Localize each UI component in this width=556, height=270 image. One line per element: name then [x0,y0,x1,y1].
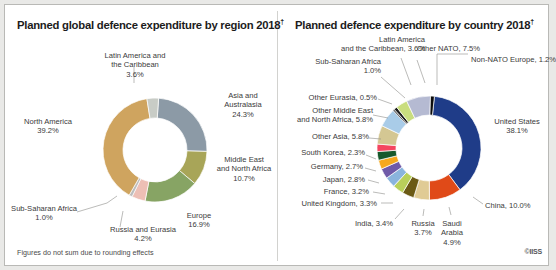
label-united-states: United States 38.1% [487,117,547,136]
label-france: France, 3.2% [281,187,369,196]
leader-non-nato-europe-r [437,54,468,85]
pie-slice-united-states [432,96,481,189]
label-non-nato-europe: Non-NATO Europe, 1.2% [471,55,556,64]
label-latin-america-caribbean-country: Latin America and the Caribbean, 3.6% [297,35,425,54]
leader-latin-america-r [401,58,411,85]
label-middle-east-north-africa: Middle East and North Africa 10.7% [207,155,281,183]
label-other-middle-east-north-africa: Other Middle East and North Africa, 5.8% [277,106,373,125]
label-other-nato: Other NATO, 7.5% [417,44,480,53]
chart-panel-by-country: Planned defence expenditure by country 2… [277,5,550,265]
label-united-kingdom: United Kingdom, 3.3% [277,199,377,208]
leader-sub-saharan [77,196,117,212]
label-sub-saharan-africa-country: Sub-Saharan Africa 1.0% [285,57,381,76]
label-saudi-arabia: Saudi Arabia 4.9% [429,219,475,247]
leader-china-r [473,197,483,204]
label-asia-australasia: Asia and Australasia 24.3% [211,91,275,119]
leader-saudi-r [449,207,451,215]
label-japan: Japan, 2.8% [283,175,365,184]
leader-japan-r [368,180,379,183]
label-south-korea: South Korea, 2.3% [279,148,365,157]
leader-other-mena-r [373,115,388,118]
leader-other-eurasia-r [378,99,392,104]
label-north-america: North America 39.2% [13,117,83,136]
leader-france-r [373,192,385,194]
label-india: India, 3.4% [321,219,393,228]
leader-russia-r [423,209,424,216]
label-latin-america-caribbean: Latin America and the Caribbean 3.6% [65,51,205,79]
leader-south-korea-r [366,155,376,159]
label-russia-eurasia: Russia and Eurasia 4.2% [89,225,197,244]
chart-panel-by-region: Planned global defence expenditure by re… [5,5,277,265]
label-china: China, 10.0% [485,201,531,210]
label-other-eurasia: Other Eurasia, 0.5% [283,93,377,102]
iiss-credit: ©IISS [525,248,542,255]
leader-india-r [395,209,404,219]
label-other-asia: Other Asia, 5.8% [283,132,369,141]
leader-sub-saharan-r [381,77,405,98]
figure-footnote: Figures do not sum due to rounding effec… [17,248,154,257]
pie-slice-asia-and-australasia [157,98,207,151]
label-sub-saharan-africa: Sub-Saharan Africa 1.0% [8,204,80,223]
leader-germany-r [365,168,376,171]
infographic-figure: Planned global defence expenditure by re… [4,4,549,266]
leader-other-nato-r [417,60,425,83]
label-germany: Germany, 2.7% [279,162,363,171]
